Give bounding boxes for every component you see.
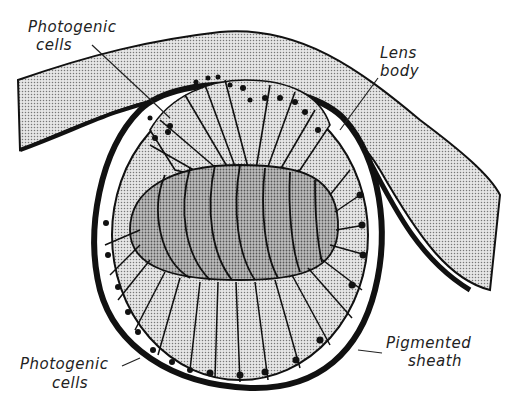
label-pigmented-sheath-1: Pigmented xyxy=(386,334,471,352)
label-lens-body-1: Lens xyxy=(380,44,417,62)
label-pigmented-sheath-2: sheath xyxy=(408,352,462,370)
lens-body xyxy=(130,165,338,280)
label-lens-body-2: body xyxy=(380,62,420,80)
photophore-diagram: Photogenic cells Lens body Photogenic ce… xyxy=(0,0,508,408)
label-photogenic-cells-top-2: cells xyxy=(36,36,72,54)
label-photogenic-cells-top-1: Photogenic xyxy=(28,18,117,36)
label-photogenic-cells-bottom-2: cells xyxy=(52,374,88,392)
label-photogenic-cells-bottom-1: Photogenic xyxy=(20,355,109,373)
